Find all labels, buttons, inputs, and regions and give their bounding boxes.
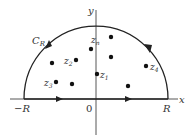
point-unlabeled — [70, 82, 74, 86]
point-unlabeled — [109, 55, 113, 59]
point-z3 — [54, 80, 58, 84]
point-zn — [89, 47, 93, 51]
label-z2: z2 — [63, 56, 73, 67]
label-zn: zn — [90, 35, 100, 46]
label-z3: z3 — [43, 78, 53, 89]
point-unlabeled — [126, 84, 130, 88]
point-z1 — [95, 72, 99, 76]
arrow-icon-real-axis — [56, 96, 63, 102]
arrow-icon-real-axis-right — [125, 96, 132, 102]
point-z4 — [144, 64, 148, 68]
label-z4: z4 — [149, 62, 159, 73]
origin-label: 0 — [86, 103, 92, 114]
point-unlabeled — [50, 61, 54, 65]
contour-diagram: y x 0 −R R CR z1 z2 z3 z4 zn — [0, 0, 192, 135]
point-unlabeled — [109, 35, 113, 39]
point-z2 — [74, 58, 78, 62]
contour-label: CR — [32, 35, 46, 48]
right-limit-label: R — [162, 103, 171, 114]
x-axis-label: x — [179, 94, 185, 105]
y-axis-label: y — [87, 5, 94, 16]
left-limit-label: −R — [14, 103, 30, 114]
label-z1: z1 — [99, 70, 109, 81]
